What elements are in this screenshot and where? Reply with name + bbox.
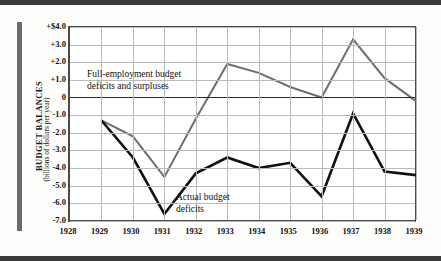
gridline-horizontal [70,221,415,222]
y-tick-label: +1.0 [30,74,66,84]
annotation-actual-line2: deficits [176,204,230,216]
gridline-vertical [353,27,354,220]
x-tick-label: 1934 [248,226,265,236]
chart-figure: BUDGET BALANCES (billions of dollars per… [0,0,441,261]
x-tick-label: 1932 [185,226,202,236]
annotation-full-employment: Full-employment budget deficits and surp… [87,69,181,92]
gridline-horizontal [70,115,415,116]
gridline-horizontal [70,150,415,151]
x-tick-label: 1937 [343,226,360,236]
annotation-actual-deficits: Actual budget deficits [176,192,230,215]
x-tick-label: 1939 [406,226,423,236]
x-tick-label: 1938 [374,226,391,236]
annotation-actual-line1: Actual budget [176,192,230,204]
gridline-vertical [385,27,386,220]
gridline-horizontal [70,62,415,63]
x-tick-label: 1936 [311,226,328,236]
plot-area [68,26,416,222]
gridline-vertical [133,27,134,220]
zero-baseline [70,97,415,99]
x-tick-label: 1933 [217,226,234,236]
gridline-vertical [322,27,323,220]
x-tick-label: 1929 [91,226,108,236]
x-axis-tick-labels: 1928192919301931193219331934193519361937… [0,226,441,242]
top-rule [0,0,441,5]
bottom-rule [0,256,441,261]
annotation-full-employment-line2: deficits and surpluses [87,81,181,93]
gridline-vertical [290,27,291,220]
y-tick-label: -3.0 [30,144,66,154]
y-tick-label: 0 [30,92,66,102]
y-tick-label: +2.0 [30,56,66,66]
gridline-vertical [259,27,260,220]
gridline-vertical [416,27,417,220]
y-tick-label: -6.0 [30,197,66,207]
gridline-horizontal [70,203,415,204]
y-tick-label: -5.0 [30,180,66,190]
gridline-horizontal [70,168,415,169]
gridline-horizontal [70,27,415,28]
x-tick-label: 1930 [122,226,139,236]
y-tick-label: -2.0 [30,127,66,137]
y-tick-label: -4.0 [30,162,66,172]
y-tick-label: -1.0 [30,109,66,119]
x-tick-label: 1931 [154,226,171,236]
gridline-horizontal [70,186,415,187]
annotation-full-employment-line1: Full-employment budget [87,69,181,81]
series-lines [70,27,416,221]
gridline-vertical [164,27,165,220]
y-axis-tick-labels: +$4.0+3.0+2.0+1.00-1.0-2.0-3.0-4.0-5.0-6… [30,0,66,261]
x-tick-label: 1935 [280,226,297,236]
gridline-horizontal [70,45,415,46]
y-tick-label: -7.0 [30,215,66,225]
x-tick-label: 1928 [60,226,77,236]
y-tick-label: +3.0 [30,39,66,49]
gridline-vertical [101,27,102,220]
gridline-horizontal [70,133,415,134]
y-tick-label: +$4.0 [30,21,66,31]
